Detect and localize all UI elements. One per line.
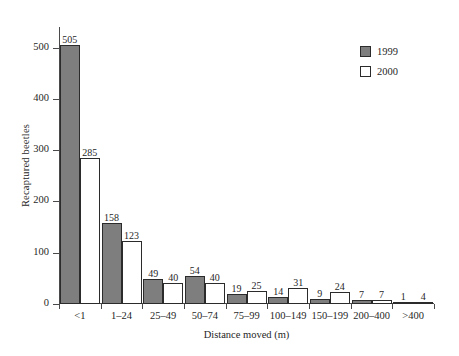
bar-value-label: 1 bbox=[401, 291, 406, 302]
bar-2000-100–149: 31 bbox=[288, 288, 308, 304]
bar-1999-1–24: 158 bbox=[102, 223, 122, 304]
bar-value-label: 19 bbox=[232, 283, 242, 294]
y-axis-tick: 400 bbox=[53, 99, 59, 100]
category-label: 75–99 bbox=[233, 310, 259, 321]
category-label: 100–149 bbox=[270, 310, 307, 321]
x-axis-tick bbox=[309, 304, 310, 309]
category-label: 1–24 bbox=[111, 310, 132, 321]
bar-2000-25–49: 40 bbox=[163, 283, 183, 304]
x-axis-tick bbox=[351, 304, 352, 309]
x-axis-title: Distance moved (m) bbox=[59, 329, 434, 340]
bar-value-label: 40 bbox=[210, 272, 220, 283]
x-axis-tick bbox=[59, 304, 60, 309]
x-axis-tick bbox=[142, 304, 143, 309]
category-label: 25–49 bbox=[150, 310, 176, 321]
legend-swatch-icon bbox=[360, 46, 371, 57]
bar-value-label: 285 bbox=[82, 147, 97, 158]
bar-2000-150–199: 24 bbox=[330, 292, 350, 304]
bar-1999-150–199: 9 bbox=[310, 299, 330, 304]
x-axis-tick bbox=[267, 304, 268, 309]
y-axis-tick-label: 500 bbox=[33, 41, 49, 52]
bar-value-label: 123 bbox=[124, 230, 139, 241]
bar-value-label: 54 bbox=[190, 265, 200, 276]
category-label: >400 bbox=[402, 310, 424, 321]
bar-value-label: 9 bbox=[317, 288, 322, 299]
bar-2000->400: 4 bbox=[413, 302, 433, 304]
y-axis-tick: 100 bbox=[53, 253, 59, 254]
y-axis-tick-label: 200 bbox=[33, 194, 49, 205]
bar-chart-figure: Recaptured beetles 0100200300400500 5052… bbox=[0, 0, 459, 356]
bar-1999-200–400: 7 bbox=[352, 300, 372, 304]
x-axis-tick bbox=[101, 304, 102, 309]
y-axis-tick-label: 400 bbox=[33, 92, 49, 103]
bar-2000-75–99: 25 bbox=[247, 291, 267, 304]
bar-1999-25–49: 49 bbox=[143, 279, 163, 304]
y-axis-title: Recaptured beetles bbox=[20, 96, 31, 236]
y-axis-tick: 500 bbox=[53, 48, 59, 49]
category-label: 200–400 bbox=[353, 310, 390, 321]
y-axis-tick-label: 100 bbox=[33, 246, 49, 257]
category-label: 50–74 bbox=[192, 310, 218, 321]
bar-1999-50–74: 54 bbox=[185, 276, 205, 304]
bar-value-label: 14 bbox=[273, 286, 283, 297]
y-axis-tick: 300 bbox=[53, 150, 59, 151]
bar-value-label: 49 bbox=[148, 268, 158, 279]
x-axis-tick bbox=[392, 304, 393, 309]
legend-swatch-icon bbox=[360, 66, 371, 77]
y-axis-tick-label: 0 bbox=[44, 297, 49, 308]
bar-value-label: 24 bbox=[335, 281, 345, 292]
bar-value-label: 31 bbox=[293, 277, 303, 288]
bar-2000-50–74: 40 bbox=[205, 283, 225, 304]
bar-value-label: 505 bbox=[62, 34, 77, 45]
bar-value-label: 158 bbox=[104, 212, 119, 223]
bar-value-label: 40 bbox=[168, 272, 178, 283]
bar-2000-<1: 285 bbox=[80, 158, 100, 304]
bar-2000-200–400: 7 bbox=[372, 300, 392, 304]
legend-label: 2000 bbox=[377, 66, 398, 77]
bar-1999-75–99: 19 bbox=[227, 294, 247, 304]
bar-2000-1–24: 123 bbox=[122, 241, 142, 304]
legend-item-2000: 2000 bbox=[360, 61, 398, 81]
bar-1999-100–149: 14 bbox=[268, 297, 288, 304]
bar-value-label: 4 bbox=[421, 291, 426, 302]
category-label: <1 bbox=[74, 310, 85, 321]
legend-label: 1999 bbox=[377, 46, 398, 57]
category-label: 150–199 bbox=[311, 310, 348, 321]
bar-value-label: 7 bbox=[379, 289, 384, 300]
bar-value-label: 7 bbox=[359, 289, 364, 300]
y-axis-tick-label: 300 bbox=[33, 143, 49, 154]
x-axis-tick bbox=[184, 304, 185, 309]
bar-value-label: 25 bbox=[252, 280, 262, 291]
x-axis-tick bbox=[434, 304, 435, 309]
y-axis-tick: 200 bbox=[53, 201, 59, 202]
x-axis-tick bbox=[226, 304, 227, 309]
bar-1999->400: 1 bbox=[393, 302, 413, 304]
legend-item-1999: 1999 bbox=[360, 41, 398, 61]
chart-legend: 19992000 bbox=[360, 41, 398, 81]
bar-1999-<1: 505 bbox=[60, 45, 80, 304]
